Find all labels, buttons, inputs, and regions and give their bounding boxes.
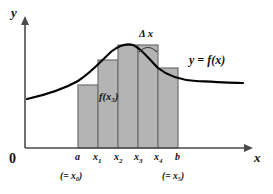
f-of-x3-label: f(x₃) bbox=[99, 92, 118, 103]
riemann-bar-5 bbox=[158, 68, 178, 148]
tick-label-a-text: a bbox=[75, 151, 80, 162]
tick-label-b: b bbox=[175, 152, 180, 162]
riemann-bars bbox=[78, 45, 178, 148]
y-axis-label: y bbox=[11, 6, 17, 19]
tick-label-x4-sub: 4 bbox=[159, 157, 163, 165]
footnote-x0: (= x₀) bbox=[60, 172, 82, 182]
origin-label: 0 bbox=[9, 152, 16, 166]
tick-label-x2-sub: 2 bbox=[119, 157, 123, 165]
tick-label-x4: x4 bbox=[154, 152, 163, 165]
y-axis bbox=[21, 16, 29, 148]
riemann-bar-4 bbox=[138, 45, 158, 148]
tick-label-x1-sub: 1 bbox=[98, 157, 102, 165]
riemann-bar-2 bbox=[98, 60, 118, 148]
riemann-bar-3 bbox=[118, 45, 138, 148]
delta-x-label: Δ x bbox=[139, 29, 153, 40]
x-axis-label: x bbox=[254, 151, 261, 164]
tick-label-x2: x2 bbox=[114, 152, 123, 165]
tick-label-a: a bbox=[75, 152, 80, 162]
tick-label-x3-sub: 3 bbox=[139, 157, 143, 165]
riemann-bar-1 bbox=[78, 85, 98, 148]
tick-label-x3: x3 bbox=[134, 152, 143, 165]
tick-label-x1: x1 bbox=[93, 152, 102, 165]
footnote-x5: (= x₅) bbox=[162, 172, 184, 182]
riemann-sum-figure: y x 0 y = f(x) Δ x f(x₃) a x1 x2 x3 x4 b… bbox=[0, 0, 273, 194]
curve-label: y = f(x) bbox=[189, 54, 225, 66]
tick-label-b-text: b bbox=[175, 151, 180, 162]
